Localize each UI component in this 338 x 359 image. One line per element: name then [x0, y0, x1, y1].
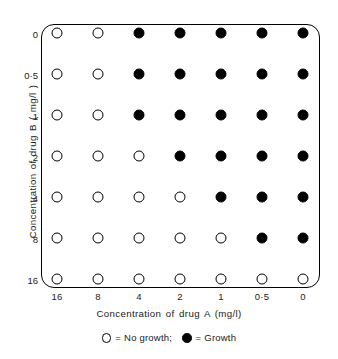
- open-circle-icon: [102, 333, 112, 343]
- well-marker-no-growth: [52, 151, 63, 162]
- well-marker-growth: [216, 192, 227, 203]
- well-marker-no-growth: [298, 274, 309, 285]
- well-marker-no-growth: [134, 192, 145, 203]
- legend-equals-no-growth: =: [115, 333, 121, 343]
- x-tick-label-8: 8: [95, 292, 100, 302]
- well-marker-no-growth: [93, 233, 104, 244]
- well-marker-growth: [257, 192, 268, 203]
- x-axis-title: Concentration of drug A (mg/l): [0, 308, 338, 319]
- x-tick-label-0-5: 0·5: [255, 292, 269, 302]
- well-marker-no-growth: [175, 274, 186, 285]
- well-marker-no-growth: [216, 274, 227, 285]
- well-marker-growth: [298, 233, 309, 244]
- well-marker-no-growth: [93, 192, 104, 203]
- x-tick-label-4: 4: [136, 292, 141, 302]
- well-marker-growth: [216, 110, 227, 121]
- well-marker-growth: [175, 28, 186, 39]
- well-marker-no-growth: [175, 192, 186, 203]
- well-marker-growth: [175, 110, 186, 121]
- well-marker-no-growth: [52, 28, 63, 39]
- legend-item-growth: = Growth: [182, 333, 236, 343]
- legend-label-no-growth: No growth: [124, 333, 169, 343]
- legend-equals-growth: =: [196, 333, 202, 343]
- well-marker-growth: [216, 28, 227, 39]
- well-marker-growth: [257, 233, 268, 244]
- well-marker-no-growth: [134, 233, 145, 244]
- well-marker-no-growth: [93, 110, 104, 121]
- well-marker-no-growth: [134, 151, 145, 162]
- well-marker-growth: [134, 110, 145, 121]
- well-marker-no-growth: [93, 151, 104, 162]
- well-marker-no-growth: [52, 69, 63, 80]
- x-tick-label-1: 1: [218, 292, 223, 302]
- well-marker-no-growth: [52, 233, 63, 244]
- well-marker-no-growth: [175, 233, 186, 244]
- well-marker-growth: [298, 28, 309, 39]
- well-marker-no-growth: [216, 233, 227, 244]
- well-marker-growth: [298, 192, 309, 203]
- well-marker-no-growth: [52, 110, 63, 121]
- well-marker-growth: [216, 69, 227, 80]
- well-marker-no-growth: [93, 274, 104, 285]
- y-tick-label-16: 16: [8, 270, 38, 288]
- x-tick-label-16: 16: [52, 292, 63, 302]
- well-marker-growth: [134, 69, 145, 80]
- well-marker-growth: [298, 69, 309, 80]
- well-marker-no-growth: [257, 274, 268, 285]
- well-marker-growth: [257, 151, 268, 162]
- well-marker-growth: [216, 151, 227, 162]
- well-marker-growth: [134, 28, 145, 39]
- well-marker-growth: [298, 110, 309, 121]
- well-marker-no-growth: [93, 28, 104, 39]
- x-tick-label-0: 0: [300, 292, 305, 302]
- well-marker-no-growth: [52, 274, 63, 285]
- legend-label-growth: Growth: [204, 333, 236, 343]
- well-marker-growth: [175, 151, 186, 162]
- well-marker-no-growth: [52, 192, 63, 203]
- well-marker-no-growth: [93, 69, 104, 80]
- legend: = No growth ; = Growth: [0, 333, 338, 343]
- well-marker-growth: [257, 110, 268, 121]
- x-tick-label-2: 2: [177, 292, 182, 302]
- well-marker-growth: [298, 151, 309, 162]
- filled-circle-icon: [182, 333, 192, 343]
- chequerboard-assay-figure: 0 0·5 1 2 4 8 16 16 8 4 2 1 0·5 0 Concen…: [0, 0, 338, 359]
- y-tick-label-0: 0: [8, 24, 38, 42]
- legend-separator: ;: [169, 333, 172, 343]
- legend-item-no-growth: = No growth ;: [102, 333, 172, 343]
- well-marker-no-growth: [134, 274, 145, 285]
- well-marker-growth: [257, 69, 268, 80]
- well-marker-growth: [175, 69, 186, 80]
- well-marker-growth: [257, 28, 268, 39]
- y-axis-title: Concentration of drug B ( mg/l ): [27, 62, 38, 262]
